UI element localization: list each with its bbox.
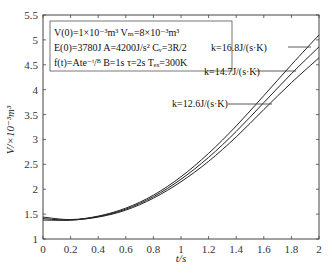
chart: 00.20.40.60.811.21.41.61.8211.522.533.54… — [0, 0, 332, 277]
x-tick-label: 1.6 — [257, 243, 271, 255]
x-tick-label: 1.2 — [202, 243, 216, 255]
param-line-3: f(t)=Ate⁻ᵗ/ᴮ B=1s τ=2s Tₑₓ=300K — [54, 57, 188, 69]
x-tick-label: 2 — [316, 243, 322, 255]
label-k1: k=16.8J/(s·K) — [211, 42, 267, 54]
param-line-1: V(0)=1×10⁻³m³ Vₘ=8×10⁻³m³ — [54, 27, 179, 39]
x-axis-label: t/s — [176, 252, 186, 264]
x-tick-label: 0.8 — [147, 243, 161, 255]
x-tick-label: 0.2 — [64, 243, 78, 255]
y-tick-label: 2.5 — [24, 158, 38, 170]
x-tick-label: 0.4 — [91, 243, 105, 255]
y-tick-label: 4 — [33, 84, 39, 96]
y-tick-label: 3.5 — [24, 109, 38, 121]
y-tick-label: 5.5 — [24, 9, 38, 21]
x-tick-label: 0.6 — [119, 243, 133, 255]
label-k2: k=14.7J/(s·K) — [204, 66, 260, 78]
y-tick-label: 5 — [33, 34, 39, 46]
y-tick-label: 2 — [33, 183, 39, 195]
x-tick-label: 1.4 — [229, 243, 243, 255]
curve-series-2 — [43, 47, 319, 220]
param-line-2: E(0)=3780J A=4200J/s² Cᵥ=3R/2 — [54, 42, 187, 54]
curve-series-3 — [43, 58, 319, 220]
y-tick-label: 4.5 — [24, 59, 38, 71]
x-tick-label: 0 — [40, 243, 46, 255]
y-tick-label: 1.5 — [24, 208, 38, 220]
x-tick-label: 1.8 — [285, 243, 299, 255]
label-k3: k=12.6J/(s·K) — [172, 98, 228, 110]
y-tick-label: 3 — [33, 133, 39, 145]
y-tick-label: 1 — [33, 233, 39, 245]
y-axis-label: V/×10⁻³m³ — [4, 105, 16, 154]
